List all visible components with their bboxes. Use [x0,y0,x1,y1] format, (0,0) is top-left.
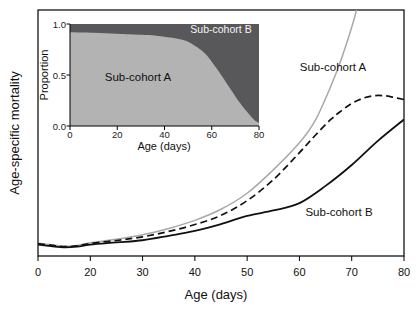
inset-y-tick-label: 1.0 [53,19,66,30]
inset-y-axis-label: Proportion [38,50,50,101]
main-x-tick-label: 20 [84,266,96,278]
curve-label-sub-cohort-a: Sub-cohort A [300,61,366,73]
inset-y-tick-label: 0.0 [53,121,66,132]
inset-x-tick-label: 60 [206,128,217,139]
main-x-tick-label: 40 [189,266,201,278]
main-x-tick-label: 50 [241,266,253,278]
inset-x-tick-label: 80 [254,128,265,139]
chart-canvas [0,0,417,310]
inset-area-label-sub-cohort-a: Sub-cohort A [105,71,171,83]
inset-x-axis-label: Age (days) [137,140,190,152]
main-x-tick-label: 30 [136,266,148,278]
inset-x-tick-label: 40 [159,128,170,139]
main-y-axis-label: Age-specific mortality [7,71,22,195]
inset-x-tick-label: 0 [67,128,72,139]
curve-label-sub-cohort-b: Sub-cohort B [305,206,372,218]
main-x-tick-label: 80 [398,266,410,278]
main-x-tick-label: 70 [346,266,358,278]
curve-sub-cohort-b [38,119,404,247]
inset-area-label-sub-cohort-b: Sub-cohort B [190,23,251,35]
main-x-tick-label: 60 [293,266,305,278]
main-x-tick-label: 0 [35,266,41,278]
inset-y-tick-label: 0.5 [53,70,66,81]
main-x-axis-label: Age (days) [185,287,248,302]
inset-x-tick-label: 20 [112,128,123,139]
mortality-figure: Age-specific mortality Age (days) Sub-co… [0,0,417,310]
